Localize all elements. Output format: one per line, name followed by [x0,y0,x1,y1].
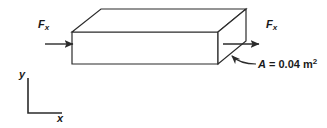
area-equals: = [266,58,279,70]
force-label-right-symbol: F [266,18,273,30]
force-label-left: Fx [38,19,49,32]
force-label-right: Fx [266,19,277,32]
area-annotation-label: A = 0.04 m2 [258,58,317,70]
axis-label-y: y [19,69,25,80]
block-front-face [72,32,218,64]
area-unit: m [303,58,313,70]
axial-force-block-diagram: Fx Fx A = 0.04 m2 y x [0,0,327,128]
block-top-face [72,9,246,32]
force-label-left-subscript: x [45,23,49,32]
force-label-left-symbol: F [38,18,45,30]
force-label-right-subscript: x [273,23,277,32]
coordinate-axes [28,78,62,113]
area-unit-exponent: 2 [313,57,317,66]
area-leader-line [232,56,256,64]
axis-label-x: x [57,113,63,124]
area-symbol: A [258,58,266,70]
area-value: 0.04 [279,58,300,70]
